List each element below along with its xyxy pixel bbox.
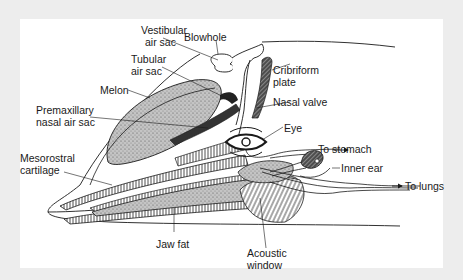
figure-frame: Vestibular air sac Blowhole Tubular air … <box>0 0 463 280</box>
label-melon: Melon <box>100 84 129 96</box>
label-premaxillary-nasal-air-sac: Premaxillary nasal air sac <box>36 104 95 128</box>
label-vestibular-air-sac: Vestibular air sac <box>141 24 187 48</box>
label-to-stomach: To stomach <box>318 143 372 155</box>
label-inner-ear: Inner ear <box>341 162 383 174</box>
cribriform-plate <box>252 57 272 118</box>
label-acoustic-window: Acoustic window <box>247 247 287 271</box>
acoustic-window <box>240 177 304 222</box>
label-eye: Eye <box>284 122 302 134</box>
label-nasal-valve: Nasal valve <box>273 96 327 108</box>
dolphin-head-diagram <box>0 0 463 280</box>
label-tubular-air-sac: Tubular air sac <box>131 53 166 77</box>
label-jaw-fat: Jaw fat <box>156 238 189 250</box>
label-cribriform-plate: Cribriform plate <box>273 64 319 88</box>
label-to-lungs: To lungs <box>405 180 444 192</box>
label-mesorostral-cartilage: Mesorostral cartilage <box>20 152 75 176</box>
label-blowhole: Blowhole <box>184 31 227 43</box>
